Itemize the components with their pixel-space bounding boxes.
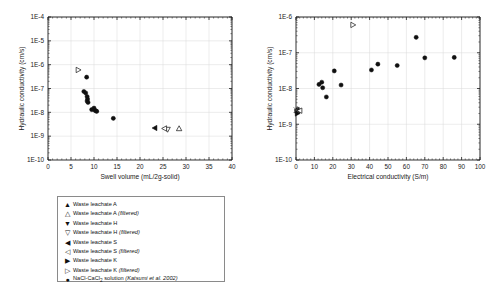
svg-text:1E-7: 1E-7 <box>31 85 45 92</box>
svg-text:Swell volume (mL/2g-solid): Swell volume (mL/2g-solid) <box>100 173 179 181</box>
svg-text:10: 10 <box>90 163 98 170</box>
legend-item: ◁Waste leachate S (filtered) <box>62 247 220 256</box>
svg-text:5: 5 <box>69 163 73 170</box>
legend-label: Waste leachate A <box>73 200 117 209</box>
svg-text:Electrical conductivity (S/m): Electrical conductivity (S/m) <box>348 173 429 181</box>
svg-text:70: 70 <box>421 163 429 170</box>
legend-marker-icon: ▷ <box>62 266 73 275</box>
legend-item: ●NaCl-CaCl2 solution (Katsumi et al. 200… <box>62 275 220 284</box>
svg-text:40: 40 <box>228 163 236 170</box>
svg-text:Hydraulic conductivity (cm/s): Hydraulic conductivity (cm/s) <box>266 47 274 131</box>
svg-text:25: 25 <box>159 163 167 170</box>
series-waste-leachate-k-filtered <box>76 67 81 72</box>
legend-marker-icon: ▶ <box>62 256 73 265</box>
svg-text:40: 40 <box>366 163 374 170</box>
series-waste-leachate-k-filtered <box>351 22 356 27</box>
series-waste-leachate-s-filtered <box>162 126 167 131</box>
figure-two-scatter-panels: 05101520253035401E-101E-91E-81E-71E-61E-… <box>0 0 495 290</box>
legend-item: ▲Waste leachate A <box>62 200 220 209</box>
svg-text:0: 0 <box>46 163 50 170</box>
chart-panel-right: 01020304050607080901001E-101E-91E-81E-71… <box>248 0 495 290</box>
svg-text:1E-9: 1E-9 <box>279 121 293 128</box>
svg-text:30: 30 <box>348 163 356 170</box>
svg-text:1E-5: 1E-5 <box>31 37 45 44</box>
svg-text:1E-9: 1E-9 <box>31 132 45 139</box>
svg-text:20: 20 <box>136 163 144 170</box>
chart-panel-left: 05101520253035401E-101E-91E-81E-71E-61E-… <box>0 0 247 290</box>
legend-label: NaCl-CaCl2 solution (Katsumi et al. 2002… <box>73 274 178 285</box>
svg-text:15: 15 <box>113 163 121 170</box>
legend-marker-icon: ▼ <box>62 219 73 228</box>
scatter-plot-swell-volume: 05101520253035401E-101E-91E-81E-71E-61E-… <box>0 0 247 190</box>
legend-label: Waste leachate A (filtered) <box>73 209 139 218</box>
svg-text:1E-4: 1E-4 <box>31 13 45 20</box>
legend-marker-icon: ◀ <box>62 238 73 247</box>
svg-text:90: 90 <box>458 163 466 170</box>
legend-left: ▲Waste leachate A△Waste leachate A (filt… <box>57 196 225 282</box>
svg-text:1E-8: 1E-8 <box>279 85 293 92</box>
svg-text:80: 80 <box>440 163 448 170</box>
svg-text:0: 0 <box>294 163 298 170</box>
series-waste-leachate-a-filtered <box>176 126 181 131</box>
legend-item: ◀Waste leachate S <box>62 238 220 247</box>
series-nacl-cacl2-solution-katsumi-et-al-2002 <box>317 35 456 99</box>
svg-text:100: 100 <box>475 163 486 170</box>
svg-text:1E-10: 1E-10 <box>27 156 44 163</box>
svg-text:10: 10 <box>311 163 319 170</box>
svg-text:30: 30 <box>182 163 190 170</box>
plot-area-right: 01020304050607080901001E-101E-91E-81E-71… <box>248 0 495 190</box>
legend-label: Waste leachate H (filtered) <box>73 228 140 237</box>
svg-text:Hydraulic conductivity (cm/s): Hydraulic conductivity (cm/s) <box>18 47 26 131</box>
legend-marker-icon: ● <box>62 275 73 284</box>
svg-text:1E-6: 1E-6 <box>31 61 45 68</box>
svg-text:1E-8: 1E-8 <box>31 109 45 116</box>
legend-item: ▶Waste leachate K <box>62 256 220 265</box>
series-nacl-cacl2-solution-katsumi-et-al-2002 <box>82 75 116 120</box>
svg-text:1E-7: 1E-7 <box>279 49 293 56</box>
legend-label: Waste leachate H <box>73 219 117 228</box>
svg-text:1E-10: 1E-10 <box>275 156 292 163</box>
plot-area-left: 05101520253035401E-101E-91E-81E-71E-61E-… <box>0 0 247 190</box>
legend-item: ▽Waste leachate H (filtered) <box>62 228 220 237</box>
legend-marker-icon: ▲ <box>62 200 73 209</box>
series-waste-leachate-s <box>152 125 157 130</box>
legend-label: Waste leachate K <box>73 256 117 265</box>
legend-marker-icon: △ <box>62 209 73 218</box>
legend-label: Waste leachate S <box>73 238 117 247</box>
svg-text:20: 20 <box>329 163 337 170</box>
scatter-plot-electrical-conductivity: 01020304050607080901001E-101E-91E-81E-71… <box>248 0 495 190</box>
legend-marker-icon: ◁ <box>62 247 73 256</box>
svg-text:50: 50 <box>384 163 392 170</box>
legend-label: Waste leachate S (filtered) <box>73 247 140 256</box>
legend-item: ▼Waste leachate H <box>62 219 220 228</box>
legend-item: △Waste leachate A (filtered) <box>62 209 220 218</box>
svg-text:1E-6: 1E-6 <box>279 13 293 20</box>
svg-text:35: 35 <box>205 163 213 170</box>
svg-text:60: 60 <box>403 163 411 170</box>
legend-marker-icon: ▽ <box>62 228 73 237</box>
